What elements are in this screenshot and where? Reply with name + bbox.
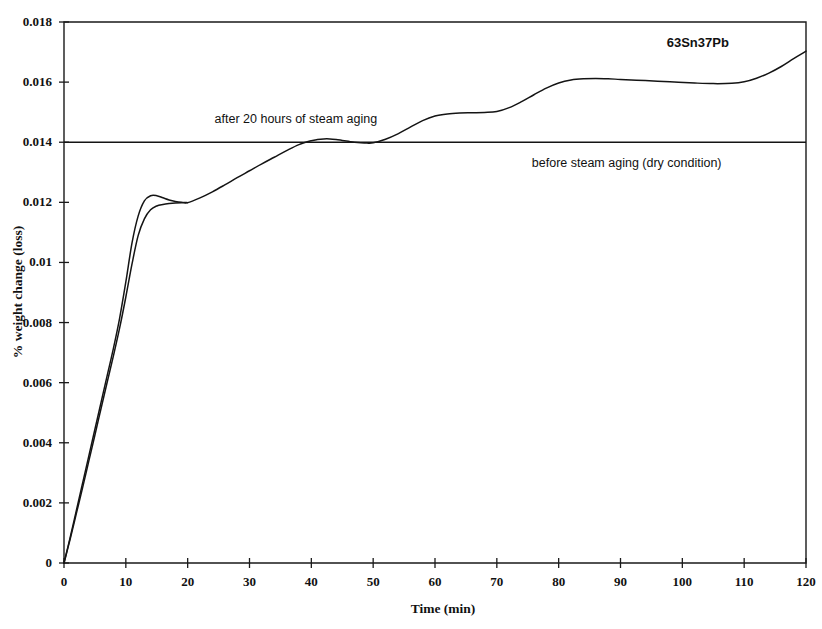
annotation-sample: 63Sn37Pb xyxy=(667,35,729,50)
y-tick-label: 0.014 xyxy=(23,134,53,149)
y-tick-label: 0.006 xyxy=(23,375,53,390)
x-tick-label: 90 xyxy=(614,574,627,589)
y-axis-title: % weight change (loss) xyxy=(10,226,25,358)
y-tick-label: 0.012 xyxy=(23,194,52,209)
y-tick-label: 0 xyxy=(46,555,53,570)
y-tick-label: 0.018 xyxy=(23,14,53,29)
x-tick-label: 120 xyxy=(796,574,816,589)
x-tick-label: 40 xyxy=(305,574,318,589)
series-line-0 xyxy=(64,51,806,563)
axis-frame xyxy=(64,22,806,563)
x-tick-label: 30 xyxy=(243,574,256,589)
y-tick-label: 0.016 xyxy=(23,74,53,89)
x-axis-title: Time (min) xyxy=(411,601,476,616)
x-tick-label: 0 xyxy=(61,574,68,589)
y-tick-label: 0.008 xyxy=(23,315,53,330)
y-tick-label: 0.01 xyxy=(29,254,52,269)
annotation-before-aging: before steam aging (dry condition) xyxy=(532,156,722,170)
annotations-group: after 20 hours of steam agingbefore stea… xyxy=(215,35,729,170)
weight-change-line-chart: 00.0020.0040.0060.0080.010.0120.0140.016… xyxy=(0,0,822,629)
series-line-1 xyxy=(64,203,188,563)
data-series-group xyxy=(64,51,806,563)
x-tick-label: 70 xyxy=(490,574,503,589)
y-tick-label: 0.002 xyxy=(23,495,52,510)
x-tick-label: 50 xyxy=(367,574,380,589)
y-tick-label: 0.004 xyxy=(23,435,53,450)
annotation-after-aging: after 20 hours of steam aging xyxy=(215,112,378,126)
x-tick-label: 10 xyxy=(119,574,132,589)
axes-group xyxy=(64,22,806,563)
x-tick-label: 110 xyxy=(735,574,754,589)
chart-container: 00.0020.0040.0060.0080.010.0120.0140.016… xyxy=(0,0,822,629)
x-tick-label: 20 xyxy=(181,574,194,589)
x-tick-label: 80 xyxy=(552,574,565,589)
x-tick-label: 100 xyxy=(673,574,693,589)
x-tick-label: 60 xyxy=(429,574,442,589)
y-axis-ticks: 00.0020.0040.0060.0080.010.0120.0140.016… xyxy=(23,14,69,570)
